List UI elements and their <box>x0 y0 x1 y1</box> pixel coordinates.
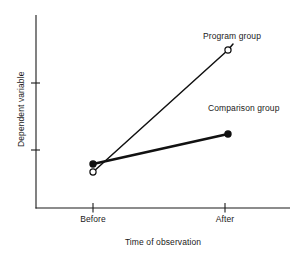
data-point-comparison-before <box>90 161 96 167</box>
x-axis-title: Time of observation <box>36 237 290 248</box>
series-label-comparison-group: Comparison group <box>208 103 280 114</box>
series-line-comparison-group <box>93 134 228 164</box>
chart-figure: Dependent variable Time of observation B… <box>0 0 301 259</box>
data-point-comparison-after <box>225 131 231 137</box>
series-label-program-group: Program group <box>203 31 261 42</box>
y-axis-title: Dependent variable <box>16 54 27 164</box>
x-tick-label-after: After <box>195 214 255 225</box>
data-point-program-after <box>225 47 231 53</box>
data-point-program-before <box>90 169 96 175</box>
x-tick-label-before: Before <box>63 214 123 225</box>
